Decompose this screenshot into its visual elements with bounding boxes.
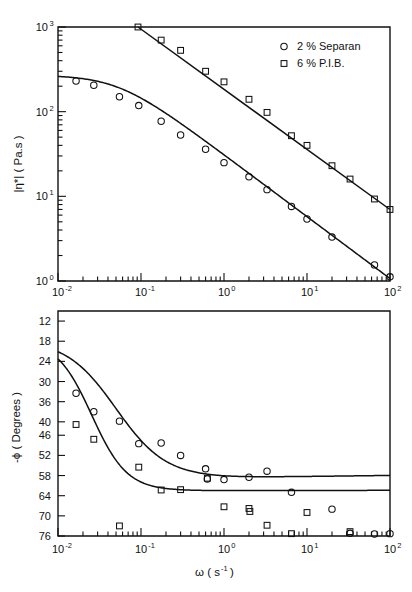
upper-y-tick-labels: 103102101100 (36, 19, 54, 287)
figure-canvas: · ·· · 10-210-1100101102103102101100|η*|… (0, 0, 412, 592)
data-point-circle (136, 440, 142, 446)
data-point-circle (177, 132, 183, 138)
upper-series-separan-points (73, 78, 393, 280)
svg-text:10: 10 (301, 543, 313, 555)
upper-fit-curve-separan (58, 76, 390, 278)
svg-text:10: 10 (36, 21, 48, 33)
svg-text:3: 3 (50, 19, 54, 28)
lower-xtick-0: 100 (218, 541, 235, 555)
data-point-square (136, 464, 142, 470)
svg-text:1: 1 (314, 541, 318, 550)
svg-text:-1: -1 (221, 564, 228, 573)
svg-text:10: 10 (36, 190, 48, 202)
data-point-square (203, 68, 209, 74)
svg-text:10: 10 (135, 543, 147, 555)
data-point-circle (221, 476, 227, 482)
lower-y-axis-label: -ϕ ( Degrees ) (10, 392, 22, 463)
lower-ytick-76: 76 (39, 530, 51, 542)
data-point-circle (264, 468, 270, 474)
lower-series-pib-points (73, 422, 353, 537)
lower-xtick-1: 101 (301, 541, 318, 555)
upper-ytick-2: 102 (36, 104, 54, 118)
data-point-circle (73, 78, 79, 84)
lower-plot-frame (58, 311, 390, 536)
legend: 2 % Separan6 % P.I.B. (281, 40, 361, 69)
lower-x-tick-labels: 10-210-1100101102 (52, 541, 401, 555)
upper-y-axis-label: |η*| ( Pa.s ) (12, 135, 24, 192)
upper-ytick-0: 100 (36, 273, 54, 287)
lower-ytick-40: 40 (39, 416, 51, 428)
data-point-square (304, 510, 310, 516)
lower-ytick-18: 18 (39, 335, 51, 347)
lower-ytick-46: 46 (39, 429, 51, 441)
data-point-circle (177, 452, 183, 458)
lower-xtick--1: 10-1 (135, 541, 155, 555)
svg-text:0: 0 (231, 541, 235, 550)
svg-text:-1: -1 (148, 541, 155, 550)
data-point-circle (221, 159, 227, 165)
lower-x-axis-ticks (58, 528, 390, 536)
data-point-square (117, 523, 123, 529)
lower-ytick-12: 12 (39, 315, 51, 327)
svg-text:0: 0 (50, 273, 54, 282)
data-point-circle (136, 102, 142, 108)
data-point-circle (91, 409, 97, 415)
data-point-circle (116, 94, 122, 100)
lower-y-tick-labels: 121824303640465258647076 (39, 315, 51, 542)
lower-xtick--2: 10-2 (52, 541, 72, 555)
lower-series-separan-points (73, 390, 393, 537)
svg-text:10: 10 (36, 106, 48, 118)
lower-ytick-24: 24 (39, 355, 51, 367)
svg-text:2: 2 (50, 104, 54, 113)
svg-text:): ) (230, 566, 234, 578)
lower-xtick-2: 102 (384, 541, 401, 555)
lower-fit-curve-pib (58, 359, 390, 491)
legend-label-separan: 2 % Separan (297, 40, 361, 52)
lower-panel-chart: 10-210-110010110212182430364046525864707… (0, 292, 412, 592)
data-point-square (178, 47, 184, 53)
upper-ytick-3: 103 (36, 19, 54, 33)
data-point-circle (116, 418, 122, 424)
data-point-circle (246, 174, 252, 180)
data-point-square (73, 422, 79, 428)
data-point-square (264, 110, 270, 116)
svg-text:2: 2 (397, 541, 401, 550)
data-point-circle (202, 146, 208, 152)
upper-y-axis-ticks (58, 27, 66, 281)
svg-text:ω ( s: ω ( s (195, 566, 220, 578)
lower-x-axis-label: ω ( s-1 ) (195, 564, 234, 578)
svg-text:10: 10 (36, 275, 48, 287)
lower-fit-curve-separan (58, 352, 390, 477)
svg-text:10: 10 (218, 543, 230, 555)
data-point-square (221, 79, 227, 85)
data-point-square (91, 436, 97, 442)
upper-x-axis-ticks (58, 273, 390, 281)
svg-text:10: 10 (384, 543, 396, 555)
data-point-square (264, 522, 270, 528)
legend-marker-square (281, 61, 287, 67)
lower-ytick-30: 30 (39, 376, 51, 388)
svg-text:1: 1 (50, 188, 54, 197)
lower-ytick-64: 64 (39, 490, 51, 502)
data-point-circle (73, 390, 79, 396)
svg-text:-2: -2 (65, 541, 72, 550)
data-point-circle (158, 118, 164, 124)
lower-ytick-70: 70 (39, 510, 51, 522)
data-point-circle (329, 506, 335, 512)
data-point-circle (202, 466, 208, 472)
data-point-circle (158, 440, 164, 446)
svg-text:10: 10 (52, 543, 64, 555)
lower-ytick-58: 58 (39, 470, 51, 482)
legend-label-pib: 6 % P.I.B. (297, 57, 345, 69)
upper-panel-chart: 10-210-1100101102103102101100|η*| ( Pa.s… (0, 0, 412, 300)
data-point-square (246, 96, 252, 102)
data-point-circle (91, 82, 97, 88)
upper-ytick-1: 101 (36, 188, 54, 202)
legend-marker-circle (281, 43, 287, 49)
lower-ytick-36: 36 (39, 396, 51, 408)
data-point-square (221, 504, 227, 510)
lower-ytick-52: 52 (39, 449, 51, 461)
